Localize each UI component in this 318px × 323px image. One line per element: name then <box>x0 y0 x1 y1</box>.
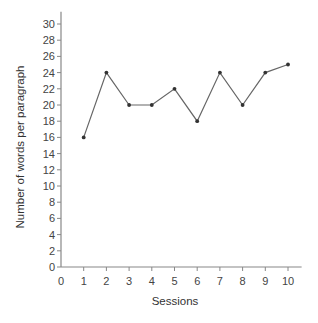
data-series <box>82 63 290 140</box>
x-tick-label: 5 <box>171 275 177 287</box>
x-tick-label: 8 <box>240 275 246 287</box>
y-tick-label: 4 <box>49 229 55 241</box>
y-tick-label: 8 <box>49 196 55 208</box>
y-tick-label: 28 <box>43 34 55 46</box>
y-tick-label: 16 <box>43 131 55 143</box>
x-tick-label: 6 <box>194 275 200 287</box>
data-point <box>105 71 109 75</box>
y-tick-label: 20 <box>43 99 55 111</box>
series-line <box>84 65 288 138</box>
data-point <box>286 63 290 67</box>
y-tick-label: 30 <box>43 18 55 30</box>
y-tick-label: 10 <box>43 180 55 192</box>
data-point <box>82 136 86 140</box>
x-tick-label: 0 <box>58 275 64 287</box>
data-point <box>218 71 222 75</box>
y-tick-label: 14 <box>43 148 55 160</box>
x-tick-label: 2 <box>103 275 109 287</box>
data-point <box>150 103 154 107</box>
x-axis: 012345678910 <box>58 267 302 287</box>
line-chart: 024681012141618202224262830 012345678910… <box>0 0 318 323</box>
y-tick-label: 6 <box>49 212 55 224</box>
y-tick-label: 12 <box>43 164 55 176</box>
x-tick-label: 7 <box>217 275 223 287</box>
data-point <box>241 103 245 107</box>
x-tick-label: 1 <box>81 275 87 287</box>
y-tick-label: 2 <box>49 245 55 257</box>
y-axis-label: Number of words per paragraph <box>14 66 26 229</box>
x-tick-label: 3 <box>126 275 132 287</box>
y-tick-label: 22 <box>43 83 55 95</box>
y-tick-label: 26 <box>43 50 55 62</box>
x-tick-label: 10 <box>282 275 294 287</box>
x-tick-label: 9 <box>262 275 268 287</box>
y-tick-label: 24 <box>43 67 55 79</box>
data-point <box>195 119 199 123</box>
y-tick-label: 0 <box>49 261 55 273</box>
x-tick-label: 4 <box>149 275 155 287</box>
y-tick-label: 18 <box>43 115 55 127</box>
y-axis: 024681012141618202224262830 <box>43 12 61 273</box>
data-point <box>173 87 177 91</box>
data-point <box>263 71 267 75</box>
data-point <box>127 103 131 107</box>
x-axis-label: Sessions <box>152 295 199 307</box>
